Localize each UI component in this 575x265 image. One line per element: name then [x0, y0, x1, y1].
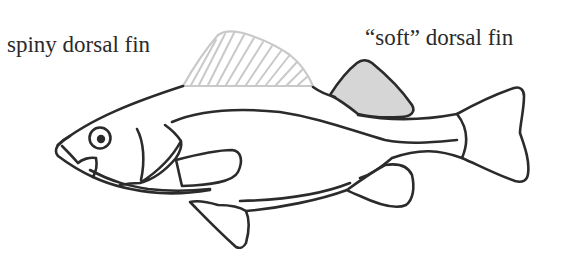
- anal-fin: [347, 164, 413, 206]
- gill-cover: [120, 125, 181, 185]
- pectoral-fin: [176, 150, 241, 186]
- lateral-line: [172, 110, 457, 143]
- soft-dorsal-fin: [330, 60, 413, 117]
- fish-diagram: [0, 0, 575, 265]
- spiny-dorsal-fin: [183, 31, 313, 86]
- eye-pupil: [97, 135, 105, 143]
- upper-jaw: [58, 136, 70, 145]
- pelvic-fin: [190, 201, 249, 248]
- caudal-fin: [457, 87, 528, 181]
- mouth: [56, 145, 97, 177]
